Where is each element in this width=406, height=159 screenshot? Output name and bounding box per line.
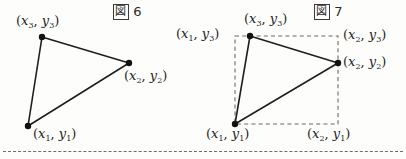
- figure-7-label-x1-y3: (x1, y3): [176, 26, 219, 41]
- figure-7-label-x2-y1: (x2, y1): [307, 126, 350, 141]
- vertex-dot-x2-y2-fig7: [335, 60, 341, 66]
- figure-7-caption-symbol: 図: [314, 4, 330, 20]
- figure-7-label-x3-y3: (x3, y3): [244, 11, 287, 26]
- figure-6-label-x2-y2: (x2, y2): [124, 68, 167, 83]
- figure-7-caption-number: 7: [334, 4, 343, 19]
- vertex-dot-x3-y3-fig6: [39, 34, 45, 40]
- figure-6-caption-symbol: 図: [113, 4, 129, 20]
- figure-6-label-x1-y1: (x1, y1): [33, 126, 76, 141]
- figure-6-caption: 図 6: [113, 4, 142, 21]
- triangle-outline-fig6: [28, 37, 129, 126]
- vertex-dot-x1-y1-fig6: [25, 123, 31, 129]
- vertex-dot-x2-y2-fig6: [126, 60, 132, 66]
- figure-7-label-x2-y2: (x2, y2): [343, 54, 386, 69]
- dashed-bounding-rect-fig7: [235, 36, 338, 124]
- figure-6-caption-number: 6: [133, 4, 142, 19]
- figure-6-label-x3-y3: (x3, y3): [16, 13, 59, 28]
- figure-7-bounding-box: [235, 36, 338, 124]
- figure-7-label-x2-y3: (x2, y3): [343, 27, 386, 42]
- triangle-outline-fig7: [235, 36, 338, 124]
- vertex-dot-x3-y3-fig7: [247, 33, 253, 39]
- page-divider: [3, 151, 403, 152]
- figure-7-label-x1-y1: (x1, y1): [206, 126, 249, 141]
- figure-7-caption: 図 7: [314, 4, 343, 21]
- figure-7-triangle: [232, 33, 341, 127]
- figure-page: 図 6 (x3, y3) (x2, y2) (x1, y1) 図 7 (x3, …: [0, 0, 406, 159]
- figure-6-triangle: [25, 34, 132, 129]
